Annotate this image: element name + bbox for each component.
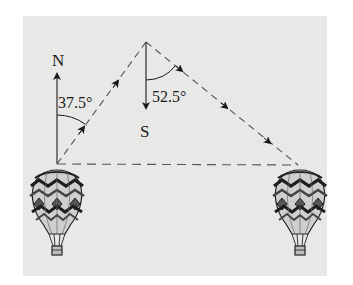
hot-air-balloon-right-icon <box>273 170 327 255</box>
diagram-svg: N 37.5° S 52.5° <box>0 0 353 285</box>
angle-label-north: 37.5° <box>58 94 92 111</box>
north-label: N <box>52 51 64 70</box>
resultant-path <box>57 164 298 165</box>
angle-arc-north <box>57 115 85 124</box>
angle-arc-south <box>146 65 176 80</box>
south-label: S <box>140 122 149 141</box>
angle-label-south: 52.5° <box>152 88 186 105</box>
leg-2-arrow-1 <box>176 66 182 71</box>
hot-air-balloon-left-icon <box>30 170 84 255</box>
leg-2-arrow-3 <box>264 138 270 143</box>
leg-1-arrow-1 <box>79 127 84 134</box>
navigation-diagram: N 37.5° S 52.5° <box>0 0 353 285</box>
leg-2-arrow-2 <box>221 103 227 108</box>
leg-1-arrow-2 <box>113 81 118 88</box>
